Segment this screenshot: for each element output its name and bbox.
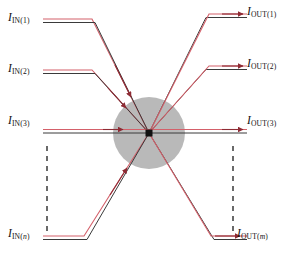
central-junction-node — [146, 130, 153, 137]
label-output-1-sub-post: ) — [274, 10, 277, 19]
label-input-3-subscript: IN(3) — [12, 119, 30, 128]
label-output-3-subscript: OUT(3) — [251, 119, 276, 128]
label-output-m: IOUT(m) — [237, 228, 268, 240]
label-input-n-sub-pre: IN( — [12, 232, 23, 241]
label-input-3-sub-post: ) — [27, 119, 30, 128]
label-output-2-sub-post: ) — [274, 62, 277, 71]
figure-container: IIN(1) IIN(2) IIN(3) IIN(n) IOUT(1) IOUT… — [0, 0, 302, 256]
label-input-n: IIN(n) — [8, 228, 30, 240]
input-2-arrowhead — [108, 88, 126, 108]
label-output-m-subscript: OUT(m) — [241, 232, 268, 241]
label-input-1-subscript: IN(1) — [12, 16, 30, 25]
label-output-2-subscript: OUT(2) — [251, 62, 276, 71]
label-input-1-sub-post: ) — [27, 16, 30, 25]
label-output-1-subscript: OUT(1) — [251, 10, 276, 19]
label-input-1: IIN(1) — [8, 12, 30, 24]
label-output-3-sub-post: ) — [274, 119, 277, 128]
label-input-3: IIN(3) — [8, 115, 30, 127]
label-input-2: IIN(2) — [8, 63, 30, 75]
label-output-1-sub-pre: OUT( — [251, 10, 270, 19]
label-output-2: IOUT(2) — [247, 58, 276, 70]
label-output-1: IOUT(1) — [247, 6, 276, 18]
input-1-arrowhead — [115, 65, 131, 97]
label-input-3-sub-pre: IN( — [12, 119, 23, 128]
label-input-2-subscript: IN(2) — [12, 67, 30, 76]
input-n-arrowhead — [110, 168, 127, 195]
label-output-m-sub-post: ) — [265, 232, 268, 241]
label-output-3-sub-pre: OUT( — [251, 119, 270, 128]
label-output-2-sub-pre: OUT( — [251, 62, 270, 71]
label-output-m-sub-pre: OUT( — [241, 232, 260, 241]
label-input-n-subscript: IN(n) — [12, 232, 30, 241]
label-input-2-sub-post: ) — [27, 67, 30, 76]
label-output-3: IOUT(3) — [247, 115, 276, 127]
label-input-1-sub-pre: IN( — [12, 16, 23, 25]
label-input-2-sub-pre: IN( — [12, 67, 23, 76]
label-input-n-sub-post: ) — [27, 232, 30, 241]
diagram-canvas — [0, 0, 302, 256]
